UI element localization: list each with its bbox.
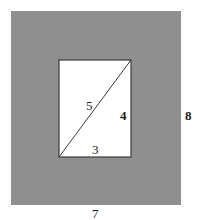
inner-width-label: 3 — [92, 142, 99, 157]
geometry-diagram: 5 4 3 8 7 — [0, 0, 197, 220]
inner-height-label: 4 — [120, 108, 127, 123]
diagonal-label: 5 — [86, 98, 93, 113]
outer-width-label: 7 — [92, 206, 99, 220]
outer-height-label: 8 — [185, 108, 192, 123]
